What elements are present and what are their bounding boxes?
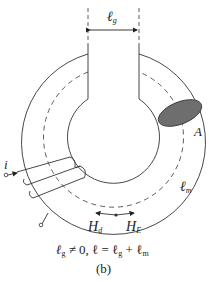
equation: ℓg ≠ 0, ℓ = ℓg + ℓm — [56, 243, 149, 258]
area-label: A — [194, 125, 202, 138]
inner-core-edge — [68, 99, 160, 183]
caption: (b) — [96, 262, 111, 275]
hd-arrow — [96, 213, 116, 215]
gap-length-label: ℓg — [107, 10, 117, 25]
current-label: i — [4, 158, 8, 171]
he-arrow — [116, 213, 134, 215]
mean-path-label: ℓm — [180, 180, 192, 195]
coil-windings — [17, 157, 85, 224]
toroid-diagram — [0, 0, 209, 282]
mean-path — [44, 72, 184, 207]
he-label: HE — [126, 220, 141, 235]
hd-label: Hd — [88, 220, 102, 235]
